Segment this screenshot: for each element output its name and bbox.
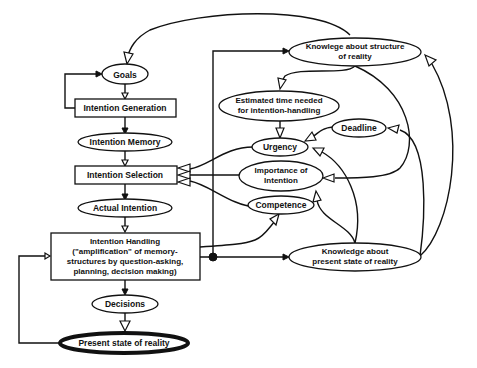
- node-estimated-time: Estimated time needed for intention-hand…: [219, 91, 339, 121]
- node-intention-handling: Intention Handling ("amplification" of m…: [51, 233, 200, 280]
- node-label: Intention Selection: [87, 170, 163, 180]
- arrowhead-hollow: [122, 93, 128, 99]
- node-label: Competence: [255, 200, 306, 210]
- arrowhead-hollow: [278, 78, 286, 89]
- node-label-line: Intention: [264, 176, 298, 185]
- node-label-line: Estimated time needed: [235, 96, 322, 105]
- node-intention-generation: Intention Generation: [75, 99, 176, 117]
- arrowhead-hollow: [313, 191, 321, 202]
- edge-knowledge-present-to-deadline: [400, 130, 424, 256]
- node-deadline: Deadline: [332, 119, 386, 137]
- arrowhead-hollow: [425, 55, 436, 66]
- node-goals: Goals: [102, 64, 148, 84]
- node-label-line: for intention-handling: [238, 106, 321, 115]
- arrowhead-hollow: [45, 253, 50, 259]
- node-actual-intention: Actual Intention: [78, 199, 172, 217]
- junction-dot: [209, 253, 217, 261]
- edge-handling-to-competence: [200, 220, 276, 247]
- arrowhead-solid: [283, 48, 289, 54]
- node-knowledge-present: Knowledge about present state of reality: [289, 243, 421, 271]
- node-intention-selection: Intention Selection: [75, 166, 177, 184]
- arrowhead-hollow: [120, 321, 130, 331]
- node-label: Deadline: [341, 123, 377, 133]
- node-decisions: Decisions: [92, 295, 158, 313]
- arrowhead-hollow: [178, 171, 190, 179]
- node-label-line: Intention Handling: [90, 237, 160, 246]
- arrowhead-solid: [122, 289, 128, 295]
- node-label: Goals: [113, 70, 137, 80]
- arrowhead-hollow: [122, 226, 128, 232]
- arrowhead-hollow: [276, 128, 284, 138]
- arrowhead-hollow: [122, 160, 128, 166]
- node-intention-memory: Intention Memory: [78, 133, 172, 151]
- arrowhead-solid: [283, 254, 289, 260]
- node-label-line: of reality: [338, 52, 372, 61]
- node-knowledge-structure: Knowlege about structure of reality: [289, 38, 421, 66]
- edge-deadline-to-urgency: [312, 127, 333, 137]
- node-importance: Importance of Intention: [239, 161, 323, 191]
- node-label-line: structures by question-asking,: [67, 257, 183, 266]
- node-label: Actual Intention: [93, 203, 157, 213]
- node-competence: Competence: [248, 196, 314, 214]
- arrowhead-hollow: [178, 178, 190, 186]
- edge-knowledge-present-to-urgency: [322, 152, 358, 243]
- edge-competence-to-selection: [190, 181, 255, 207]
- arrowhead-hollow: [305, 132, 316, 141]
- node-label: Intention Generation: [83, 103, 166, 113]
- arrowhead-hollow: [313, 148, 324, 156]
- node-label-line: ("amplification" of memory-: [72, 247, 178, 256]
- arrowhead-hollow: [270, 214, 279, 225]
- node-label-line: planning, decision making): [73, 267, 176, 276]
- node-label: Present state of reality: [78, 338, 169, 348]
- arrowhead-hollow: [323, 174, 334, 182]
- node-label-line: Knowlege about structure: [306, 42, 405, 51]
- arrowhead-solid: [96, 71, 102, 77]
- arrowhead-hollow: [178, 164, 190, 172]
- node-label: Decisions: [105, 299, 145, 309]
- edge-knowledge-present-to-knowledge-structure: [420, 64, 453, 256]
- edge-knowledge-present-to-importance: [317, 200, 355, 243]
- arrowhead-hollow: [388, 125, 399, 133]
- flow-diagram: Goals Intention Generation Intention Mem…: [0, 0, 477, 368]
- arrowhead-hollow: [124, 52, 133, 64]
- edge-urgency-to-selection: [190, 147, 253, 169]
- node-label-line: present state of reality: [312, 257, 398, 266]
- node-label: Urgency: [263, 142, 297, 152]
- edge-knowledge-structure-to-estimated: [282, 66, 355, 81]
- diagram-canvas: Goals Intention Generation Intention Mem…: [0, 0, 477, 368]
- node-present-state: Present state of reality: [60, 333, 188, 353]
- node-urgency: Urgency: [252, 138, 308, 156]
- node-label-line: Knowledge about: [322, 247, 389, 256]
- node-label-line: Importance of: [255, 166, 308, 175]
- node-label: Intention Memory: [90, 137, 161, 147]
